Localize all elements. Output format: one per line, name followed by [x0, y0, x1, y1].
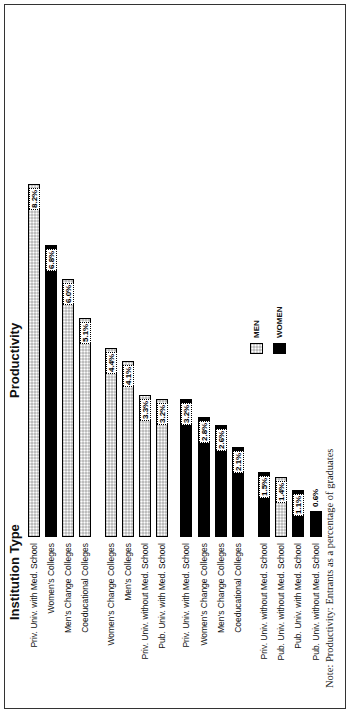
category-label: Priv. Univ. without Med. School [259, 543, 269, 713]
bar-value-label: 2.8% [199, 421, 210, 443]
bar-value-label: 8.2% [29, 188, 40, 210]
bar-men [28, 184, 40, 537]
category-label: Men's Change Colleges [216, 543, 226, 713]
category-label: Women's Colleges [46, 543, 56, 713]
bar-women [45, 245, 57, 537]
rotated-chart-canvas: Institution Type Productivity Priv. Univ… [0, 0, 351, 718]
category-label: Men's Change Colleges [63, 543, 73, 713]
bar-men [122, 361, 134, 537]
bar-value-label: 2.6% [216, 429, 227, 451]
bar-value-label: 4.4% [106, 352, 117, 374]
category-label: Coeducational Colleges [233, 543, 243, 713]
category-label: Coeducational Colleges [80, 543, 90, 713]
category-label: Priv. Univ. with Med. School [29, 543, 39, 713]
category-label: Pub. Univ. with Med. School [157, 543, 167, 713]
category-label: Men's Colleges [123, 543, 133, 713]
legend-label-men: MEN [252, 320, 261, 338]
bar-value-label: 6.0% [63, 283, 74, 305]
legend-swatch-men [250, 343, 263, 354]
category-label: Women's Change Colleges [106, 543, 116, 713]
bar-men [79, 318, 91, 537]
category-label: Priv. Univ. without Med. School [140, 543, 150, 713]
bar-value-label: 4.1% [123, 365, 134, 387]
category-label: Pub. Univ. without Med. School [276, 543, 286, 713]
chart-page: Institution Type Productivity Priv. Univ… [0, 0, 351, 718]
category-label: Pub. Univ. with Med. School [293, 543, 303, 713]
category-label: Women's Change Colleges [199, 543, 209, 713]
bar-value-label: 0.6% [311, 488, 320, 508]
value-axis-title: Productivity [7, 323, 22, 398]
legend-swatch-women [273, 343, 286, 354]
bar-women [310, 511, 322, 537]
bar-value-label: 1.1% [293, 494, 304, 516]
category-axis-title: Institution Type [7, 524, 22, 620]
bar-men [62, 279, 74, 537]
bar-value-label: 3.2% [157, 403, 168, 425]
category-label: Priv. Univ. with Med. School [181, 543, 191, 713]
bar-value-label: 1.5% [259, 476, 270, 498]
bar-value-label: 2.1% [233, 451, 244, 473]
category-label: Pub. Univ. without Med. School [311, 543, 321, 713]
bar-value-label: 5.1% [80, 322, 91, 344]
footnote: Note: Productivity: Entrants as a percen… [324, 449, 335, 688]
bar-value-label: 1.4% [276, 481, 287, 503]
bar-value-label: 3.2% [181, 403, 192, 425]
bar-men [105, 348, 117, 537]
legend-label-women: WOMEN [275, 306, 284, 338]
bar-value-label: 3.3% [140, 399, 151, 421]
bar-value-label: 6.8% [46, 249, 57, 271]
